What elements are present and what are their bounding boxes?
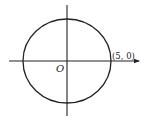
point-label: (5, 0)	[112, 51, 135, 61]
diagram-canvas: O (5, 0)	[0, 0, 148, 121]
origin-label: O	[56, 63, 64, 74]
circle-diagram: O (5, 0)	[0, 0, 148, 121]
